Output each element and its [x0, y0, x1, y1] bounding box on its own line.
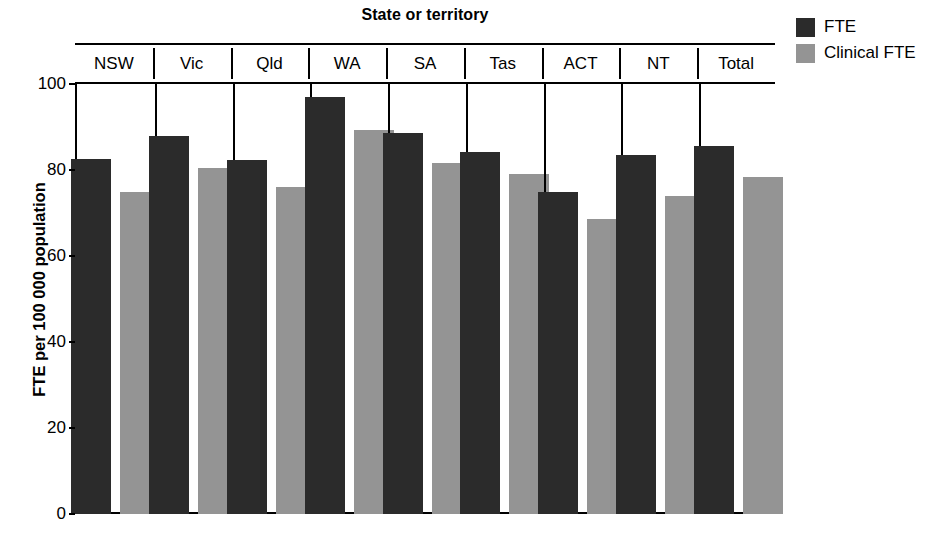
- category-label-sa: SA: [386, 45, 464, 82]
- y-tick-label-100: 100: [20, 74, 66, 94]
- legend-item-fte: FTE: [796, 14, 916, 40]
- category-separator: [619, 48, 621, 79]
- plot-area: NSWVicQldWASATasACTNTTotal: [75, 43, 775, 514]
- category-label-text: Total: [718, 54, 754, 74]
- bar-chart-figure: State or territory FTE per 100 000 popul…: [0, 0, 927, 534]
- bar-vic-fte: [149, 136, 189, 514]
- category-label-total: Total: [697, 45, 775, 82]
- y-tick-mark-40: [69, 341, 75, 343]
- category-separator: [231, 48, 233, 79]
- y-tick-label-40: 40: [20, 332, 66, 352]
- y-tick-mark-20: [69, 427, 75, 429]
- bar-act-fte: [538, 192, 578, 515]
- category-label-tas: Tas: [464, 45, 542, 82]
- category-label-text: Vic: [180, 54, 203, 74]
- y-tick-mark-100: [69, 83, 75, 85]
- category-label-text: WA: [334, 54, 361, 74]
- category-header-band: NSWVicQldWASATasACTNTTotal: [75, 43, 775, 84]
- bar-total-clinical-fte: [743, 177, 783, 514]
- category-separator: [542, 48, 544, 79]
- category-label-text: NT: [647, 54, 670, 74]
- legend-item-clinical-fte: Clinical FTE: [796, 40, 916, 66]
- category-label-text: ACT: [564, 54, 598, 74]
- chart-title: State or territory: [75, 6, 775, 24]
- category-label-text: NSW: [94, 54, 134, 74]
- bars-container: [75, 84, 777, 514]
- y-tick-mark-80: [69, 169, 75, 171]
- y-tick-label-20: 20: [20, 418, 66, 438]
- category-label-text: SA: [414, 54, 437, 74]
- category-label-act: ACT: [542, 45, 620, 82]
- y-tick-mark-0: [69, 513, 75, 515]
- category-separator: [464, 48, 466, 79]
- y-tick-label-0: 0: [20, 504, 66, 524]
- bar-wa-fte: [305, 97, 345, 514]
- category-label-wa: WA: [308, 45, 386, 82]
- y-axis-tick-labels: 020406080100: [0, 43, 66, 514]
- y-tick-mark-60: [69, 255, 75, 257]
- category-separator: [386, 48, 388, 79]
- legend-item-label: Clinical FTE: [824, 43, 916, 63]
- bar-total-fte: [694, 146, 734, 514]
- legend-swatch-icon: [796, 18, 815, 37]
- category-label-text: Tas: [490, 54, 516, 74]
- bar-sa-fte: [383, 133, 423, 514]
- chart-legend: FTEClinical FTE: [796, 14, 916, 66]
- category-separator: [153, 48, 155, 79]
- y-tick-label-80: 80: [20, 160, 66, 180]
- category-label-text: Qld: [256, 54, 282, 74]
- legend-item-label: FTE: [824, 17, 856, 37]
- bar-qld-fte: [227, 160, 267, 514]
- category-separator: [697, 48, 699, 79]
- legend-swatch-icon: [796, 44, 815, 63]
- category-label-qld: Qld: [231, 45, 309, 82]
- category-label-nsw: NSW: [75, 45, 153, 82]
- category-label-nt: NT: [619, 45, 697, 82]
- bar-tas-fte: [460, 152, 500, 514]
- y-tick-label-60: 60: [20, 246, 66, 266]
- bar-nsw-fte: [71, 159, 111, 514]
- bar-nt-fte: [616, 155, 656, 514]
- category-label-vic: Vic: [153, 45, 231, 82]
- category-separator: [308, 48, 310, 79]
